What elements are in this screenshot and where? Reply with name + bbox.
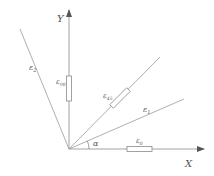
eps2-label: ε2 <box>29 63 36 73</box>
eps90-gauge <box>67 76 72 101</box>
strain-rosette-diagram: X Y ε2 ε90 ε45 ε1 ε0 α <box>0 0 214 176</box>
eps1-direction-line <box>69 99 184 149</box>
eps0-label: ε0 <box>136 137 143 146</box>
eps90-label: ε90 <box>56 78 66 87</box>
x-axis-label: X <box>184 158 193 169</box>
eps45-label: ε45 <box>103 92 113 101</box>
eps2-direction-line <box>20 29 69 149</box>
y-axis-label: Y <box>57 13 65 24</box>
eps1-label: ε1 <box>143 105 150 115</box>
alpha-angle-arc <box>87 141 89 149</box>
eps0-gauge <box>127 147 152 152</box>
alpha-label: α <box>93 139 99 148</box>
eps45-gauge <box>110 88 131 109</box>
